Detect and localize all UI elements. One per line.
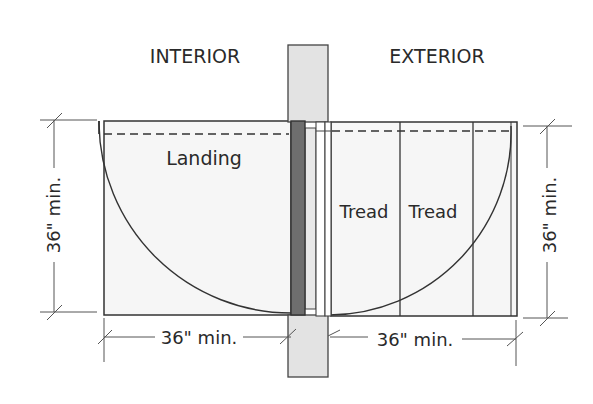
interior-label: INTERIOR <box>150 45 240 67</box>
landing-label: Landing <box>166 147 242 169</box>
door-opening-gap <box>305 128 316 309</box>
wall-upper <box>288 45 328 122</box>
door-slab <box>291 121 305 315</box>
exterior-door-frame <box>316 122 325 316</box>
exterior-width-label: 36" min. <box>377 329 454 350</box>
wall-lower <box>288 315 328 377</box>
door-landing-diagram: INTERIOR EXTERIOR Landing Tread Tread 36… <box>0 0 593 404</box>
exterior-label: EXTERIOR <box>389 45 484 67</box>
exterior-door-jamb <box>325 122 331 316</box>
interior-depth-label: 36" min. <box>43 177 64 254</box>
tread-label-1: Tread <box>339 201 389 222</box>
interior-width-label: 36" min. <box>161 327 238 348</box>
tread-label-2: Tread <box>408 201 458 222</box>
exterior-depth-label: 36" min. <box>539 177 560 254</box>
